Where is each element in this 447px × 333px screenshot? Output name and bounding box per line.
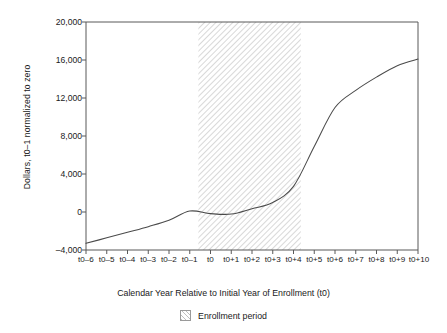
x-tick-label: t0–4 [120, 255, 136, 264]
x-tick-label: t0+10 [409, 255, 429, 264]
x-tick-label: t0+9 [389, 255, 405, 264]
x-axis-tick-labels: t0–6 t0–5 t0–4 t0–3 t0–2 t0–1 t0 t0+1 t0… [0, 0, 447, 333]
x-axis-title: Calendar Year Relative to Initial Year o… [0, 288, 447, 298]
x-tick-label: t0–3 [140, 255, 156, 264]
x-tick-label: t0–6 [78, 255, 94, 264]
chart-legend: Enrollment period [0, 310, 447, 321]
legend-item-label: Enrollment period [198, 311, 267, 321]
x-tick-label: t0+4 [286, 255, 302, 264]
x-tick-label: t0 [207, 255, 214, 264]
enrollment-period-swatch-icon [180, 310, 191, 321]
x-tick-label: t0+5 [306, 255, 322, 264]
x-tick-label: t0+8 [369, 255, 385, 264]
x-tick-label: t0+6 [327, 255, 343, 264]
x-tick-label: t0+3 [265, 255, 281, 264]
x-tick-label: t0+1 [223, 255, 239, 264]
x-tick-label: t0+7 [348, 255, 364, 264]
x-tick-label: t0–5 [99, 255, 115, 264]
x-tick-label: t0+2 [244, 255, 260, 264]
x-tick-label: t0–1 [182, 255, 198, 264]
x-tick-label: t0–2 [161, 255, 177, 264]
chart-figure: Dollars, t0–1 normalized to zero 20,000 … [0, 0, 447, 333]
